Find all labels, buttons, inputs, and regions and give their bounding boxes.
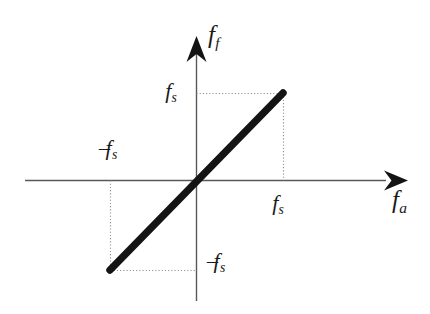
x-tick-negative-base: f: [106, 135, 112, 160]
vertical-axis-label-sub: f: [215, 34, 219, 51]
y-tick-positive-base: f: [165, 78, 171, 103]
x-axis-tick-label-positive: fs: [270, 192, 284, 217]
y-axis-tick-label-negative: –fs: [207, 250, 225, 275]
y-tick-negative-sub: s: [220, 260, 225, 275]
x-tick-negative-sub: s: [112, 147, 117, 162]
y-tick-negative-base: f: [214, 248, 220, 273]
figure-root: ff fa fs –fs fs –fs: [0, 0, 430, 314]
horizontal-axis-label-sub: a: [399, 199, 407, 216]
horizontal-axis-label: fa: [392, 187, 407, 215]
x-tick-negative-minus: –: [99, 135, 103, 160]
y-tick-positive-sub: s: [172, 90, 177, 105]
vertical-axis-label: ff: [208, 22, 220, 50]
x-tick-positive-base: f: [272, 190, 278, 215]
y-axis-tick-label-positive: fs: [163, 80, 177, 105]
vertical-axis-label-base: f: [208, 21, 215, 48]
x-axis-tick-label-negative: –fs: [99, 137, 117, 162]
y-tick-negative-minus: –: [207, 248, 211, 273]
x-tick-positive-sub: s: [279, 202, 284, 217]
horizontal-axis-label-base: f: [392, 186, 399, 213]
